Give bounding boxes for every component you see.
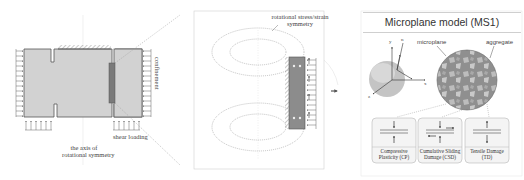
axis-label: the axis of rotational symmetry	[62, 145, 106, 159]
microplane-label: microplane	[417, 39, 446, 45]
axis-label-line2: rotational symmetry	[62, 152, 106, 159]
rotational-symmetry-panel	[194, 11, 324, 169]
confinement-label: confinement	[153, 57, 160, 90]
axis-z-label: z	[368, 94, 370, 99]
mechanism-csd-line2: Damage (CSD)	[418, 155, 462, 161]
axis-x-label: x	[424, 81, 427, 86]
mechanism-csd: Cumulative Sliding Damage (CSD)	[418, 149, 462, 160]
mechanism-cp-line2: Plasticity (CP)	[372, 155, 416, 161]
specimen-cross-section	[16, 15, 151, 165]
shear-loading-label: shear loading	[113, 134, 148, 141]
microplane-model-title: Microplane model (MS1)	[363, 12, 521, 33]
axis-n-label: n	[401, 37, 404, 42]
aggregate-label: aggregate	[486, 39, 513, 45]
mechanism-td-line2: (TD)	[465, 155, 509, 161]
mechanism-td: Tensile Damage (TD)	[465, 149, 509, 160]
symmetry-label-line2: symmetry	[270, 21, 330, 28]
axis-y-label: y	[389, 39, 392, 44]
rotational-symmetry-label: rotational stress/strain symmetry	[270, 14, 330, 28]
mechanism-cp: Compressive Plasticity (CP)	[372, 149, 416, 160]
